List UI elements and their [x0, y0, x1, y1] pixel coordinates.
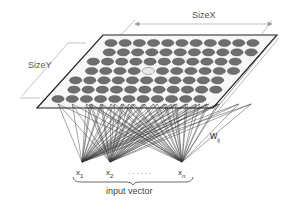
- weight-label: wij: [210, 130, 220, 143]
- weight-subscript: ij: [217, 137, 220, 143]
- size-y-label: SizeY: [28, 60, 52, 70]
- input-vector-label: input vector: [106, 186, 153, 196]
- input-brace: [72, 176, 194, 186]
- weight-connections: [58, 104, 251, 162]
- size-x-label: SizeX: [192, 10, 216, 20]
- input-ellipsis: ......: [128, 167, 153, 176]
